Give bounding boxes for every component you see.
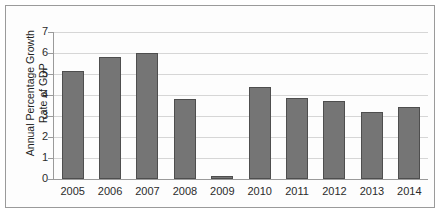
x-axis-tick-label: 2012 [316, 186, 353, 197]
x-axis-tick-label: 2011 [278, 186, 315, 197]
bar[interactable] [361, 112, 383, 179]
bar[interactable] [174, 99, 196, 179]
bar[interactable] [99, 57, 121, 179]
bar[interactable] [136, 53, 158, 179]
bar[interactable] [249, 87, 271, 179]
bar[interactable] [323, 101, 345, 179]
x-axis-tick-labels: 2005200620072008200920102011201220132014 [54, 186, 428, 204]
y-axis-tick-labels: 76543210 [30, 6, 48, 209]
y-axis-tick [48, 32, 54, 33]
bar-group [91, 32, 128, 179]
x-axis-tick-label: 2013 [353, 186, 390, 197]
x-axis-tick-label: 2008 [166, 186, 203, 197]
x-axis-tick-label: 2010 [241, 186, 278, 197]
bar-group [166, 32, 203, 179]
y-axis-tick-label: 7 [34, 26, 48, 37]
y-axis-tick-label: 4 [34, 89, 48, 100]
x-axis-tick-label: 2005 [54, 186, 91, 197]
x-axis-tick-label: 2009 [204, 186, 241, 197]
x-axis-tick-label: 2014 [391, 186, 428, 197]
y-axis-tick-label: 6 [34, 47, 48, 58]
y-axis-tick [48, 179, 54, 180]
plot-area [54, 32, 428, 179]
bar[interactable] [398, 107, 420, 179]
y-axis-tick-label: 3 [34, 110, 48, 121]
bar-group [278, 32, 315, 179]
axis-baseline [54, 179, 428, 180]
y-axis-tick-label: 1 [34, 152, 48, 163]
bar-group [353, 32, 390, 179]
bar-group [54, 32, 91, 179]
y-axis-tick [48, 137, 54, 138]
y-axis-tick [48, 53, 54, 54]
bar[interactable] [62, 71, 84, 179]
y-axis-tick [48, 74, 54, 75]
bar-group [204, 32, 241, 179]
bar-group [391, 32, 428, 179]
bar-group [241, 32, 278, 179]
x-axis-tick-label: 2007 [129, 186, 166, 197]
x-axis-tick-label: 2006 [91, 186, 128, 197]
y-axis-tick-label: 0 [34, 173, 48, 184]
y-axis-tick [48, 158, 54, 159]
bar-group [129, 32, 166, 179]
bar[interactable] [211, 176, 233, 179]
chart-frame: Annual Percentage Growth Rate of GDP 765… [5, 5, 435, 208]
y-axis-tick-label: 2 [34, 131, 48, 142]
y-axis-tick-label: 5 [34, 68, 48, 79]
y-axis-tick [48, 116, 54, 117]
bar-group [316, 32, 353, 179]
y-axis-tick [48, 95, 54, 96]
bar[interactable] [286, 98, 308, 179]
